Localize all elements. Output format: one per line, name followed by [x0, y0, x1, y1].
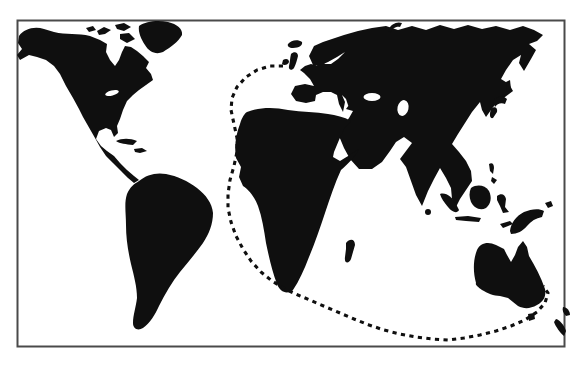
continent-africa [235, 108, 359, 292]
arctic-island [86, 26, 96, 32]
black-sea [364, 93, 381, 101]
landmasses [17, 21, 570, 336]
island-philippines [491, 177, 497, 184]
arctic-island [115, 23, 131, 31]
island-madagascar [345, 240, 355, 263]
island-greenland [139, 21, 182, 53]
island-java [455, 216, 481, 222]
island-ireland [282, 59, 289, 65]
island-borneo [470, 186, 491, 210]
arctic-island [97, 27, 111, 35]
continent-australia [474, 241, 545, 308]
island-iceland [288, 40, 302, 48]
island-philippines [489, 163, 494, 174]
island-sri-lanka [425, 209, 431, 215]
island-great-britain [289, 52, 298, 69]
arctic-island [120, 33, 135, 43]
world-map-canvas [0, 0, 581, 371]
island-sulawesi [497, 194, 509, 213]
continent-north-america [17, 28, 153, 183]
island-bismarck [545, 201, 553, 208]
continent-south-america [125, 173, 213, 329]
island-new-guinea [510, 209, 544, 234]
island-cuba [116, 139, 137, 145]
island-hispaniola [134, 148, 147, 153]
map-figure [0, 0, 581, 371]
